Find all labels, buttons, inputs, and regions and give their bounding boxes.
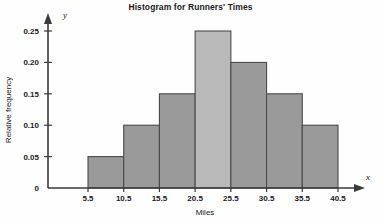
histogram-bar	[302, 125, 338, 188]
histogram-bar	[88, 157, 124, 188]
y-tick-label: 0.10	[23, 121, 39, 130]
x-tick-label: 30.5	[259, 194, 275, 203]
x-tick-label: 35.5	[294, 194, 310, 203]
histogram-bar	[124, 125, 160, 188]
histogram-chart: Histogram for Runners' Times 5.510.515.5…	[0, 0, 381, 221]
plot-area: 5.510.515.520.525.530.535.540.5 00.050.1…	[0, 0, 381, 221]
x-tick-label: 5.5	[82, 194, 94, 203]
histogram-bar	[231, 62, 267, 188]
y-tick-label: 0.25	[23, 27, 39, 36]
x-tick-label: 25.5	[223, 194, 239, 203]
y-tick-label: 0.15	[23, 90, 39, 99]
x-tick-label: 10.5	[116, 194, 132, 203]
x-tick-label: 40.5	[330, 194, 346, 203]
bars-group	[88, 31, 338, 188]
x-tick-labels: 5.510.515.520.525.530.535.540.5	[82, 188, 346, 203]
histogram-bar	[195, 31, 231, 188]
x-tick-label: 15.5	[152, 194, 168, 203]
histogram-bar	[159, 94, 195, 188]
x-axis-arrow-icon	[354, 184, 365, 192]
y-tick-label: 0.20	[23, 58, 39, 67]
y-axis-title: Relative frequency	[4, 77, 13, 143]
y-axis-arrow-icon	[44, 13, 52, 24]
x-axis-title: Miles	[196, 208, 215, 217]
histogram-bar	[267, 94, 303, 188]
y-tick-label: 0.05	[23, 153, 39, 162]
x-axis-variable-letter: x	[365, 172, 370, 182]
x-tick-label: 20.5	[187, 194, 203, 203]
y-axis-variable-letter: y	[62, 10, 67, 20]
y-tick-label: 0	[35, 184, 40, 193]
